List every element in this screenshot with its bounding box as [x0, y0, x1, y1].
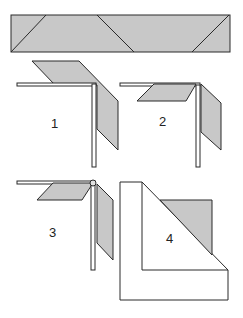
folding-diagram: 1 2 3 4: [0, 0, 243, 318]
step-4-label: 4: [166, 232, 173, 245]
step-2-figure: [120, 83, 221, 167]
strip: [11, 15, 230, 52]
step-4-figure: [120, 182, 228, 300]
step-1-figure: [17, 61, 118, 167]
step-3-label: 3: [49, 226, 56, 239]
diagram-svg: [0, 0, 243, 318]
step-2-label: 2: [159, 115, 166, 128]
step-1-label: 1: [51, 117, 58, 130]
step-3-figure: [17, 180, 113, 270]
